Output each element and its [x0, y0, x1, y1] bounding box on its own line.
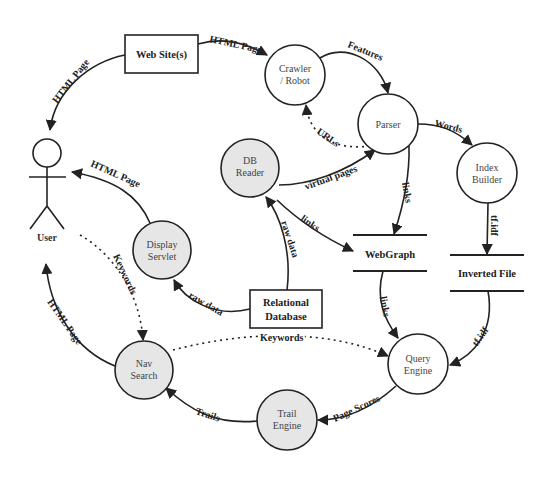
edge-label: links [299, 213, 322, 234]
edge-trailengine-to-navsearch: Trails [166, 388, 257, 424]
data-flow-diagram: HTML Page HTML Page Features URLs Words … [0, 0, 547, 489]
edge-website-to-user: HTML Page [50, 55, 125, 130]
edge-website-to-crawler: HTML Page [198, 33, 267, 55]
edge-label: raw data [187, 289, 225, 318]
process-crawler-robot: Crawler / Robot [265, 45, 325, 105]
process-label-line2: Servlet [148, 251, 177, 262]
store-label: Inverted File [458, 268, 516, 279]
process-label-line1: Index [476, 162, 499, 173]
edge-label: HTML Page [89, 158, 142, 190]
process-label-line1: Display [146, 239, 177, 250]
edge-label: HTML Page [45, 297, 85, 347]
process-label-line2: Search [130, 370, 157, 381]
process-label-line1: Crawler [279, 63, 312, 74]
process-label-line1: Query [406, 353, 431, 364]
edge-label: Features [346, 39, 385, 63]
process-label-line2: Engine [273, 420, 302, 431]
actor-label: User [37, 232, 58, 243]
process-label: Parser [376, 119, 402, 130]
entity-label: Web Site(s) [136, 49, 188, 61]
process-display-servlet: Display Servlet [133, 221, 191, 279]
edge-label: HTML Page [50, 56, 92, 105]
edge-label: tf.idf [470, 324, 491, 348]
edge-invertedfile-to-queryengine: tf.idf [450, 291, 491, 365]
edge-label: HTML Page [209, 33, 264, 55]
edge-label: Keywords [260, 332, 303, 343]
entity-label-line2: Database [265, 311, 307, 322]
process-nav-search: Nav Search [115, 341, 173, 399]
edge-parser-to-indexbuilder: Words [418, 117, 472, 145]
edge-indexbuilder-to-invertedfile: tf.idf [487, 203, 500, 254]
process-parser: Parser [358, 94, 418, 154]
edge-reldb-to-dbreader: raw data [266, 197, 301, 290]
edge-navsearch-to-queryengine: Keywords [173, 332, 388, 356]
process-label-line1: Trail [277, 408, 296, 419]
edge-webgraph-to-queryengine: links [378, 271, 398, 338]
edge-label: Trails [194, 405, 221, 423]
data-store-inverted-file: Inverted File [450, 255, 524, 291]
process-trail-engine: Trail Engine [257, 390, 317, 450]
external-entity-website: Web Site(s) [125, 35, 198, 73]
process-index-builder: Index Builder [457, 143, 517, 203]
process-label-line2: Builder [472, 174, 503, 185]
process-query-engine: Query Engine [388, 334, 448, 394]
edge-navsearch-to-user: HTML Page [45, 264, 115, 366]
process-label-line2: Reader [236, 167, 265, 178]
edge-label: links [378, 295, 392, 317]
data-store-webgraph: WebGraph [353, 235, 427, 271]
process-label-line1: Nav [136, 358, 153, 369]
edge-dbreader-to-parser: virtual pages [279, 150, 375, 192]
edge-label: Words [434, 117, 464, 135]
actor-user: User [29, 139, 66, 243]
edge-label: raw data [279, 219, 301, 259]
edge-label: Page Scores [331, 392, 382, 423]
edge-label: links [400, 181, 414, 203]
edge-crawler-to-parser: Features [320, 39, 388, 93]
process-label-line1: DB [243, 155, 257, 166]
edge-parser-to-webgraph: links [394, 146, 414, 234]
process-label-line2: / Robot [280, 75, 310, 86]
edge-displayservlet-to-user: HTML Page [72, 158, 150, 223]
external-entity-relational-database: Relational Database [250, 290, 322, 328]
store-label: WebGraph [365, 249, 415, 260]
edge-label: tf.idf [489, 215, 500, 237]
edge-reldb-to-displayservlet: raw data [174, 280, 250, 318]
user-icon [33, 139, 61, 167]
entity-label-line1: Relational [263, 297, 309, 308]
edge-queryengine-to-trailengine: Page Scores [318, 386, 396, 424]
process-label-line2: Engine [404, 365, 433, 376]
edge-label: virtual pages [303, 163, 359, 192]
process-db-reader: DB Reader [221, 139, 279, 197]
edge-label: URLs [315, 126, 342, 149]
